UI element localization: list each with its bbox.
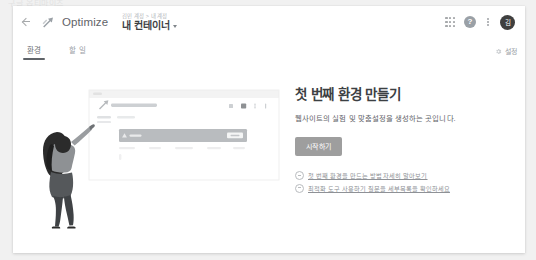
app-bar: Optimize 김민 계정 > 내 계정 내 컨테이너 ? 김 (13, 6, 525, 38)
settings-label: 설정 (505, 46, 517, 56)
settings-action[interactable]: 설정 (495, 46, 517, 60)
start-button[interactable]: 시작하기 (295, 137, 342, 156)
gear-icon (495, 48, 502, 55)
help-link-checklist[interactable]: 최적화 도구 사용하기 질문을 세부목록을 확인하세요 (295, 184, 511, 193)
chevron-down-icon (173, 25, 177, 28)
back-arrow-icon[interactable] (19, 15, 33, 29)
page-subtitle: 웹사이트의 실험 및 맞춤설정을 생성하는 곳입니다. (295, 113, 511, 124)
apps-grid-icon[interactable] (445, 17, 455, 27)
main-content: 첫 번째 환경 만들기 웹사이트의 실험 및 맞춤설정을 생성하는 곳입니다. … (13, 60, 525, 253)
page-title: 첫 번째 환경 만들기 (295, 86, 511, 104)
screenshot-root: 구글 옵티마이즈 Optimize 김민 계정 > 내 계정 내 컨테이너 (0, 0, 536, 260)
app-card: Optimize 김민 계정 > 내 계정 내 컨테이너 ? 김 환경 할 일 (13, 6, 525, 253)
avatar[interactable]: 김 (500, 15, 515, 30)
container-selector[interactable]: 내 컨테이너 (122, 20, 177, 32)
help-links: 첫 번째 환경을 만드는 방법 자세히 알아보기 최적화 도구 사용하기 질문을… (295, 171, 511, 193)
brand-name: Optimize (62, 16, 108, 28)
tab-bar: 환경 할 일 설정 (13, 38, 525, 60)
more-vert-icon[interactable] (485, 18, 491, 27)
breadcrumb: 김민 계정 > 내 계정 (122, 13, 177, 20)
optimize-logo-icon (40, 14, 56, 30)
cta-block: 첫 번째 환경 만들기 웹사이트의 실험 및 맞춤설정을 생성하는 곳입니다. … (281, 78, 525, 196)
tab-environments[interactable]: 환경 (25, 44, 43, 60)
help-link-label: 최적화 도구 사용하기 질문을 세부목록을 확인하세요 (308, 184, 450, 193)
link-bullet-icon (295, 184, 304, 193)
container-name: 내 컨테이너 (122, 20, 170, 32)
help-link-label: 첫 번째 환경을 만드는 방법 자세히 알아보기 (308, 171, 428, 180)
tab-todo[interactable]: 할 일 (67, 44, 88, 60)
link-bullet-icon (295, 171, 304, 180)
help-link-create-experience[interactable]: 첫 번째 환경을 만드는 방법 자세히 알아보기 (295, 171, 511, 180)
empty-state-illustration (31, 88, 281, 238)
help-icon[interactable]: ? (464, 16, 476, 28)
breadcrumb-block: 김민 계정 > 내 계정 내 컨테이너 (122, 13, 177, 32)
app-bar-actions: ? 김 (445, 15, 517, 30)
